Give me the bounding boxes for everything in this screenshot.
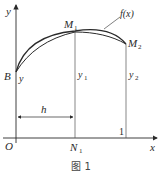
h-label: h <box>41 103 47 115</box>
chord-m1-m2 <box>75 32 126 44</box>
y2-label: y <box>128 69 134 80</box>
y1-label: y <box>77 69 83 80</box>
n1-subscript: 1 <box>79 147 83 155</box>
curve-fx-label: f(x) <box>120 8 135 20</box>
y2-subscript: 2 <box>135 74 139 82</box>
figure-diagram: y x O B y M 1 M 2 f(x) y 1 y 2 h N 1 1 图… <box>0 0 162 176</box>
origin-label: O <box>5 140 13 152</box>
fx-leader-line <box>104 17 120 29</box>
point-b-label: B <box>4 70 11 82</box>
n1-label: N <box>69 141 78 153</box>
y1-subscript: 1 <box>84 74 88 82</box>
point-m2-subscript: 2 <box>138 43 142 51</box>
point-m2-label: M <box>127 37 138 49</box>
x-axis-label: x <box>149 141 155 153</box>
figure-caption: 图 1 <box>0 158 162 173</box>
point-m1-label: M <box>63 18 74 30</box>
y-axis-label: y <box>5 5 11 17</box>
curve-fx <box>16 30 126 72</box>
tick-one-label: 1 <box>119 126 124 137</box>
point-m1-subscript: 1 <box>74 24 78 32</box>
y-at-b-label: y <box>18 73 24 84</box>
